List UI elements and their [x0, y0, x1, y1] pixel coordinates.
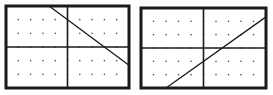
grid-dot [91, 74, 93, 76]
grid-dot [18, 60, 20, 62]
grid-dot [116, 60, 118, 62]
grid-dot [116, 74, 118, 76]
grid-dot [42, 19, 44, 21]
grid-dot [190, 74, 192, 76]
grid-dot [253, 74, 255, 76]
grid-dot [178, 34, 180, 36]
graph-left [4, 4, 131, 90]
grid-dot [253, 34, 255, 36]
grid-dot [165, 61, 167, 63]
grid-dot [30, 74, 32, 76]
grid-dot [42, 60, 44, 62]
grid-dot [116, 19, 118, 21]
grid-dot [178, 61, 180, 63]
grid-dot [30, 33, 32, 35]
grid-dot [253, 61, 255, 63]
grid-dot [104, 60, 106, 62]
grid-dot [228, 74, 230, 76]
grid-dot [240, 61, 242, 63]
grid-dot [165, 74, 167, 76]
grid-dot [79, 19, 81, 21]
grid-dot [215, 74, 217, 76]
plotted-line [49, 6, 129, 65]
grid-dot [79, 60, 81, 62]
grid-dot [79, 74, 81, 76]
grid-dot [190, 61, 192, 63]
grid-dot [228, 34, 230, 36]
grid-dot [153, 21, 155, 23]
grid-dot [228, 61, 230, 63]
grid-dot [215, 34, 217, 36]
grid-dot [165, 21, 167, 23]
grid-dot [18, 19, 20, 21]
grid-dot [42, 33, 44, 35]
grid-dot [116, 33, 118, 35]
grid-dot [240, 74, 242, 76]
grid-dot [104, 74, 106, 76]
grid-dot [54, 33, 56, 35]
grid-dot [228, 21, 230, 23]
grid-dot [190, 34, 192, 36]
plotted-line [166, 17, 266, 88]
grid-dot [153, 34, 155, 36]
grid-dot [165, 34, 167, 36]
grid-dot [30, 60, 32, 62]
grid-dot [91, 60, 93, 62]
grid-dot [178, 21, 180, 23]
grid-dot [178, 74, 180, 76]
grid-dot [30, 19, 32, 21]
grid-dot [79, 33, 81, 35]
grid-dot [18, 33, 20, 35]
graph-right-plot [139, 6, 268, 90]
grid-dot [153, 74, 155, 76]
grid-dot [190, 21, 192, 23]
graph-right [139, 6, 268, 90]
grid-dot [18, 74, 20, 76]
grid-dot [54, 19, 56, 21]
grid-dot [54, 74, 56, 76]
grid-dot [215, 61, 217, 63]
grid-dot [253, 21, 255, 23]
grid-dot [104, 33, 106, 35]
grid-dot [215, 21, 217, 23]
grid-dot [104, 19, 106, 21]
grid-dot [153, 61, 155, 63]
graph-left-plot [4, 4, 131, 90]
grid-dot [42, 74, 44, 76]
grid-dot [91, 19, 93, 21]
grid-dot [54, 60, 56, 62]
grid-dot [91, 33, 93, 35]
grid-dot [240, 21, 242, 23]
